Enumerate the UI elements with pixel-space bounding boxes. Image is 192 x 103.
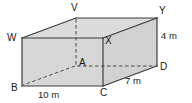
vertex-label-C: C bbox=[100, 88, 107, 98]
vertex-label-X: X bbox=[105, 36, 112, 46]
dimension-label-height: 4 m bbox=[161, 31, 177, 41]
cuboid-figure: V W Y X A B C D 10 m 7 m 4 m bbox=[0, 0, 192, 103]
dimension-label-width: 10 m bbox=[38, 90, 59, 100]
vertex-label-B: B bbox=[11, 83, 18, 93]
vertex-label-A: A bbox=[79, 58, 86, 68]
dimension-label-depth: 7 m bbox=[125, 76, 141, 86]
vertex-label-Y: Y bbox=[159, 6, 166, 16]
vertex-label-D: D bbox=[160, 62, 167, 72]
face-front bbox=[22, 38, 103, 86]
vertex-label-W: W bbox=[7, 33, 16, 43]
vertex-label-V: V bbox=[71, 3, 78, 13]
